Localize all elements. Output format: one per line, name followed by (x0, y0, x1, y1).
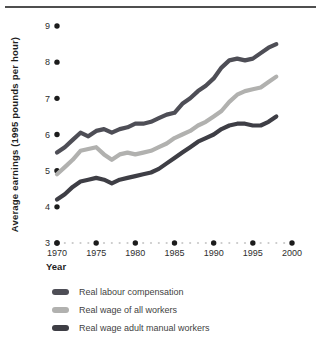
baseline-minor-dot (150, 242, 152, 244)
series-line-1 (57, 44, 276, 153)
y-tick-label: 4 (45, 202, 50, 212)
baseline-minor-dot (166, 242, 168, 244)
y-tick-dot (54, 59, 59, 64)
y-tick-dot (54, 204, 59, 209)
legend-item-adult-manual-workers: Real wage adult manual workers (52, 322, 210, 333)
labour-compensation-swatch-icon (52, 289, 69, 295)
baseline-minor-dot (79, 242, 81, 244)
baseline-minor-dot (220, 242, 222, 244)
legend-item-labour-compensation: Real labour compensation (52, 286, 210, 297)
x-axis-label: Year (46, 261, 66, 272)
baseline-minor-dot (236, 242, 238, 244)
baseline-minor-dot (103, 242, 105, 244)
adult-manual-workers-swatch-icon (52, 325, 69, 331)
baseline-minor-dot (87, 242, 89, 244)
x-tick-label: 1985 (164, 248, 184, 258)
y-tick-label: 6 (45, 130, 50, 140)
baseline-minor-dot (158, 242, 160, 244)
x-tick-dot (172, 240, 177, 245)
series-line-3 (57, 116, 276, 199)
y-tick-label: 5 (45, 166, 50, 176)
earnings-line-chart-figure: Average earnings (1995 pounds per hour) … (0, 0, 319, 341)
baseline-minor-dot (228, 242, 230, 244)
legend-label: Real wage of all workers (79, 305, 177, 315)
baseline-minor-dot (205, 242, 207, 244)
all-workers-swatch-icon (52, 307, 69, 313)
legend-label: Real labour compensation (79, 287, 184, 297)
y-tick-dot (54, 96, 59, 101)
legend-label: Real wage adult manual workers (79, 323, 210, 333)
legend: Real labour compensation Real wage of al… (52, 286, 210, 333)
y-tick-label: 9 (45, 21, 50, 31)
x-tick-dot (211, 240, 216, 245)
baseline-minor-dot (197, 242, 199, 244)
x-tick-label: 1995 (243, 248, 263, 258)
x-tick-dot (133, 240, 138, 245)
y-tick-label: 8 (45, 57, 50, 67)
baseline-minor-dot (64, 242, 66, 244)
x-tick-label: 1970 (47, 248, 67, 258)
x-tick-dot (54, 240, 59, 245)
baseline-minor-dot (260, 242, 262, 244)
baseline-minor-dot (267, 242, 269, 244)
y-tick-dot (54, 132, 59, 137)
legend-item-all-workers: Real wage of all workers (52, 304, 210, 315)
baseline-minor-dot (244, 242, 246, 244)
x-tick-label: 1975 (86, 248, 106, 258)
x-tick-label: 1980 (125, 248, 145, 258)
x-tick-label: 1990 (204, 248, 224, 258)
y-tick-label: 3 (45, 238, 50, 248)
baseline-minor-dot (181, 242, 183, 244)
baseline-minor-dot (111, 242, 113, 244)
y-tick-label: 7 (45, 94, 50, 104)
baseline-minor-dot (275, 242, 277, 244)
x-tick-dot (93, 240, 98, 245)
baseline-minor-dot (119, 242, 121, 244)
baseline-minor-dot (283, 242, 285, 244)
x-tick-label: 2000 (282, 248, 302, 258)
y-tick-dot (54, 23, 59, 28)
baseline-minor-dot (72, 242, 74, 244)
baseline-minor-dot (189, 242, 191, 244)
baseline-minor-dot (126, 242, 128, 244)
x-tick-dot (250, 240, 255, 245)
baseline-minor-dot (142, 242, 144, 244)
x-tick-dot (289, 240, 294, 245)
